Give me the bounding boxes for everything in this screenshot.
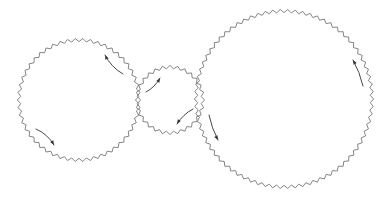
gear-train-diagram — [0, 0, 392, 201]
